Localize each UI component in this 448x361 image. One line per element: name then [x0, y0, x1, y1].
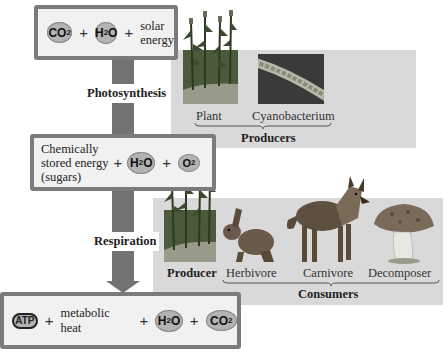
- atp-icon: ATP: [12, 313, 38, 329]
- plus-sign: +: [113, 154, 122, 171]
- plus-sign: +: [139, 312, 148, 329]
- herbivore-image: [220, 206, 278, 264]
- producer-caption: Producer: [167, 266, 217, 281]
- consumers-label: Consumers: [298, 287, 358, 302]
- stored-energy-text: Chemicallystored energy(sugars): [41, 142, 108, 184]
- consumers-brace: [222, 279, 440, 287]
- plus-sign: +: [162, 154, 171, 171]
- respiration-label: Respiration: [92, 232, 159, 251]
- plus-sign: +: [45, 312, 54, 329]
- reactants-box: CO2 + H2O + solarenergy: [34, 5, 178, 60]
- h2o-molecule-icon: H2O: [127, 152, 155, 174]
- h2o-molecule-icon: H2O: [95, 22, 117, 44]
- h2o-molecule-icon: H2O: [155, 310, 183, 332]
- co2-molecule-icon: CO2: [206, 310, 237, 331]
- photosynthesis-label: Photosynthesis: [85, 84, 168, 103]
- plus-sign: +: [124, 24, 133, 41]
- plant-image: [183, 10, 238, 104]
- producers-brace: [194, 122, 332, 130]
- cyanobacterium-image: [258, 54, 324, 104]
- producers-label: Producers: [241, 131, 296, 146]
- plus-sign: +: [190, 312, 199, 329]
- metabolic-heat-text: metabolic heat: [60, 306, 132, 336]
- respiration-products-box: ATP + metabolic heat + H2O + CO2: [0, 292, 241, 349]
- products-box: Chemicallystored energy(sugars) + H2O + …: [30, 134, 216, 191]
- o2-molecule-icon: O2: [178, 154, 200, 172]
- decomposer-image: [372, 204, 434, 266]
- co2-molecule-icon: CO2: [47, 22, 72, 43]
- carnivore-image: [284, 176, 370, 266]
- plus-sign: +: [79, 24, 88, 41]
- solar-energy-text: solarenergy: [140, 19, 174, 47]
